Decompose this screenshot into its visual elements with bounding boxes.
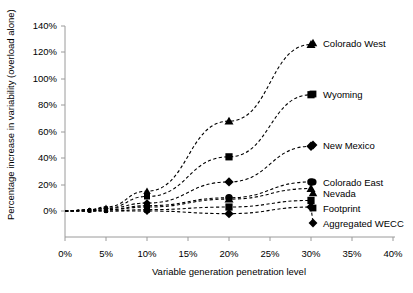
series-line: [65, 95, 311, 211]
data-point: [224, 177, 233, 186]
series-wyoming: [65, 91, 315, 211]
series-aggregated-wecc: [65, 202, 316, 218]
x-tick-10: 10%: [137, 248, 157, 259]
series-footprint: [65, 197, 315, 213]
x-tick-35: 35%: [342, 248, 362, 259]
x-tick-25: 25%: [260, 248, 280, 259]
series-label-footprint: Footprint: [323, 203, 361, 214]
y-tick-0: 0%: [43, 205, 57, 216]
series-label-new-mexico: New Mexico: [323, 140, 375, 151]
y-tick-140: 140%: [33, 20, 58, 31]
series-label-aggregated-wecc: Aggregated WECC: [323, 218, 404, 229]
x-tick-40: 40%: [383, 248, 403, 259]
legend-marker: [310, 91, 317, 98]
legend-marker: [309, 178, 316, 185]
y-tick-20: 20%: [38, 179, 58, 190]
x-tick-0: 0%: [58, 248, 72, 259]
x-axis-title: Variable generation penetration level: [152, 266, 306, 277]
series-label-nevada: Nevada: [323, 188, 356, 199]
series-colorado-west: [65, 40, 316, 211]
legend-marker: [309, 219, 318, 228]
data-point: [144, 193, 150, 199]
line-chart: Percentage increase in variability (over…: [0, 0, 413, 293]
series-colorado-east: [65, 178, 315, 213]
series-line: [65, 182, 311, 211]
y-tick-100: 100%: [33, 73, 58, 84]
y-axis-title: Percentage increase in variability (over…: [5, 9, 16, 220]
data-point: [225, 153, 232, 160]
chart-container: Percentage increase in variability (over…: [0, 0, 413, 293]
series-label-wyoming: Wyoming: [323, 89, 363, 100]
x-tick-5: 5%: [99, 248, 113, 259]
x-tick-20: 20%: [219, 248, 239, 259]
series-label-colorado-west: Colorado West: [323, 38, 386, 49]
series-line: [65, 207, 311, 214]
data-point: [143, 187, 151, 194]
series-line: [65, 45, 311, 212]
y-tick-80: 80%: [38, 99, 58, 110]
y-tick-120: 120%: [33, 46, 58, 57]
x-tick-15: 15%: [178, 248, 198, 259]
y-tick-60: 60%: [38, 126, 58, 137]
y-tick-40: 40%: [38, 152, 58, 163]
series-label-colorado-east: Colorado East: [323, 177, 384, 188]
series-layer: [65, 40, 316, 218]
x-tick-30: 30%: [301, 248, 321, 259]
